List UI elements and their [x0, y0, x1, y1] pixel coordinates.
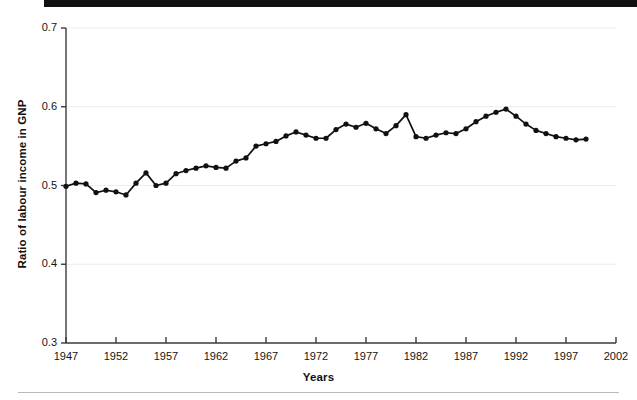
- x-tick-label: 1987: [441, 350, 491, 362]
- data-point-marker: [503, 107, 508, 112]
- y-tick-label: 0.4: [0, 257, 57, 269]
- data-point-marker: [153, 183, 158, 188]
- data-point-marker: [123, 192, 128, 197]
- data-series-line: [66, 109, 586, 195]
- data-point-marker: [313, 136, 318, 141]
- x-tick-label: 1992: [491, 350, 541, 362]
- data-point-marker: [423, 136, 428, 141]
- data-point-marker: [113, 189, 118, 194]
- data-point-marker: [253, 144, 258, 149]
- y-tick-label: 0.3: [0, 336, 57, 348]
- data-point-marker: [583, 136, 588, 141]
- y-tick-label: 0.7: [0, 21, 57, 33]
- data-point-marker: [303, 133, 308, 138]
- x-axis-title: Years: [0, 371, 637, 383]
- data-point-marker: [533, 128, 538, 133]
- data-point-marker: [513, 114, 518, 119]
- x-tick-label: 2002: [591, 350, 637, 362]
- data-point-marker: [343, 121, 348, 126]
- data-point-marker: [143, 170, 148, 175]
- data-point-marker: [493, 110, 498, 115]
- data-point-marker: [483, 114, 488, 119]
- x-tick-label: 1952: [91, 350, 141, 362]
- data-point-marker: [333, 127, 338, 132]
- data-point-marker: [173, 171, 178, 176]
- data-point-marker: [93, 190, 98, 195]
- data-point-marker: [473, 119, 478, 124]
- data-point-marker: [523, 121, 528, 126]
- data-point-marker: [73, 181, 78, 186]
- y-tick-label: 0.6: [0, 100, 57, 112]
- x-tick-label: 1972: [291, 350, 341, 362]
- data-point-marker: [553, 134, 558, 139]
- data-point-marker: [403, 112, 408, 117]
- data-point-marker: [213, 165, 218, 170]
- data-point-marker: [323, 136, 328, 141]
- data-point-marker: [183, 168, 188, 173]
- data-point-marker: [83, 181, 88, 186]
- data-point-marker: [193, 166, 198, 171]
- x-tick-label: 1982: [391, 350, 441, 362]
- y-tick-label: 0.5: [0, 179, 57, 191]
- data-point-marker: [203, 163, 208, 168]
- data-point-marker: [363, 121, 368, 126]
- data-point-marker: [133, 181, 138, 186]
- x-tick-label: 1957: [141, 350, 191, 362]
- data-point-marker: [103, 188, 108, 193]
- x-tick-label: 1967: [241, 350, 291, 362]
- x-tick-label: 1962: [191, 350, 241, 362]
- data-point-marker: [273, 139, 278, 144]
- figure-bottom-rule: [18, 392, 619, 393]
- data-point-marker: [373, 126, 378, 131]
- data-point-marker: [463, 126, 468, 131]
- x-tick-label: 1947: [41, 350, 91, 362]
- data-point-marker: [63, 184, 68, 189]
- data-point-marker: [453, 131, 458, 136]
- data-point-marker: [573, 137, 578, 142]
- data-point-marker: [233, 158, 238, 163]
- data-point-marker: [283, 133, 288, 138]
- data-point-marker: [393, 123, 398, 128]
- data-point-marker: [223, 166, 228, 171]
- data-point-marker: [353, 125, 358, 130]
- data-point-marker: [443, 130, 448, 135]
- data-point-marker: [413, 134, 418, 139]
- line-chart-plot: [0, 0, 637, 400]
- data-point-marker: [243, 155, 248, 160]
- data-point-marker: [433, 133, 438, 138]
- x-tick-label: 1977: [341, 350, 391, 362]
- data-point-marker: [163, 181, 168, 186]
- data-point-marker: [293, 129, 298, 134]
- data-point-marker: [383, 131, 388, 136]
- x-tick-label: 1997: [541, 350, 591, 362]
- chart-figure: Ratio of labour income in GNP Years 0.30…: [0, 0, 637, 400]
- data-point-marker: [543, 131, 548, 136]
- data-point-marker: [263, 141, 268, 146]
- data-point-marker: [563, 136, 568, 141]
